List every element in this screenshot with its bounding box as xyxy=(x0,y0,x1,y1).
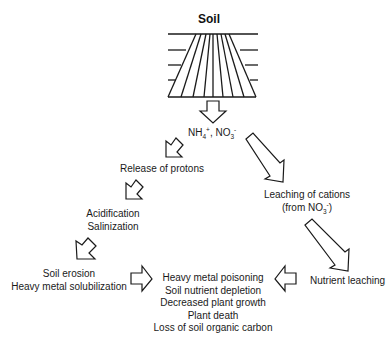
effect-item: Soil nutrient depletion xyxy=(150,285,276,298)
arrow-right-icon xyxy=(131,266,152,291)
label-acidification-salinization: Acidification Salinization xyxy=(78,208,148,233)
label-ammonium-nitrate: NH4+, NO3- xyxy=(188,127,236,140)
arrow-down-right-icon xyxy=(246,133,284,182)
arrow-down-left-icon xyxy=(166,138,183,157)
arrow-down-right-icon xyxy=(305,219,349,271)
effect-item: Plant death xyxy=(150,310,276,323)
arrow-left-icon xyxy=(275,266,296,291)
soil-block-icon xyxy=(168,34,258,97)
arrow-down-left-icon xyxy=(76,238,96,259)
effects-list: Heavy metal poisoning Soil nutrient depl… xyxy=(150,272,276,335)
effect-item: Loss of soil organic carbon xyxy=(150,322,276,335)
label-nutrient-leaching: Nutrient leaching xyxy=(310,275,385,288)
arrow-down-icon xyxy=(200,101,226,123)
arrow-down-left-icon xyxy=(126,180,143,199)
label-leaching-of-cations: Leaching of cations (from NO3-) xyxy=(257,189,357,214)
label-release-of-protons: Release of protons xyxy=(120,163,204,176)
effect-item: Decreased plant growth xyxy=(150,297,276,310)
effect-item: Heavy metal poisoning xyxy=(150,272,276,285)
label-soil-erosion: Soil erosion Heavy metal solubilization xyxy=(8,268,130,293)
